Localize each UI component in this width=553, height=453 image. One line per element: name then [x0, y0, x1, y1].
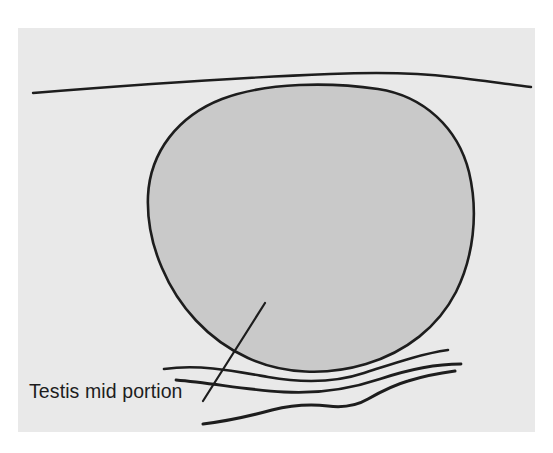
figure-root: Testis mid portion: [0, 0, 553, 453]
testis-diagram-svg: Testis mid portion: [0, 0, 553, 453]
page-title: Testis mid portion: [29, 380, 183, 402]
